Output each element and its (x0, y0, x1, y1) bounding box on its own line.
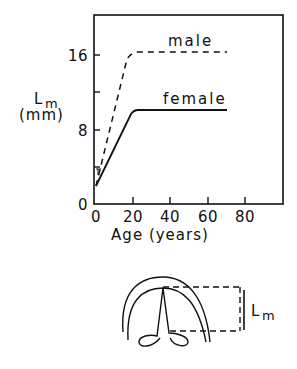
series-label-male: male (168, 32, 213, 50)
x-axis-ticks (133, 197, 245, 204)
x-tick-label-80: 80 (235, 208, 255, 226)
diagram-right-fold (163, 288, 188, 346)
diagram-label-main: L (251, 302, 260, 320)
series-label-female: female (163, 90, 227, 108)
diagram-left-fold (139, 288, 163, 346)
diagram-label-sub: m (262, 308, 275, 323)
y-axis-ticks (94, 55, 100, 167)
chart-figure: 0 8 16 0 20 40 60 80 Age (years) L m (mm… (0, 0, 297, 369)
y-tick-label-0: 0 (78, 196, 88, 214)
y-tick-label-16: 16 (68, 47, 88, 65)
y-tick-label-8: 8 (78, 122, 88, 140)
x-tick-label-0: 0 (91, 208, 101, 226)
x-tick-label-20: 20 (123, 208, 143, 226)
x-tick-label-60: 60 (198, 208, 218, 226)
x-axis-title: Age (years) (111, 226, 209, 244)
x-tick-label-40: 40 (160, 208, 180, 226)
y-axis-title-units: (mm) (19, 106, 64, 124)
anatomy-diagram (123, 277, 244, 346)
series-male-line (96, 52, 227, 186)
series-female-line (96, 110, 227, 186)
